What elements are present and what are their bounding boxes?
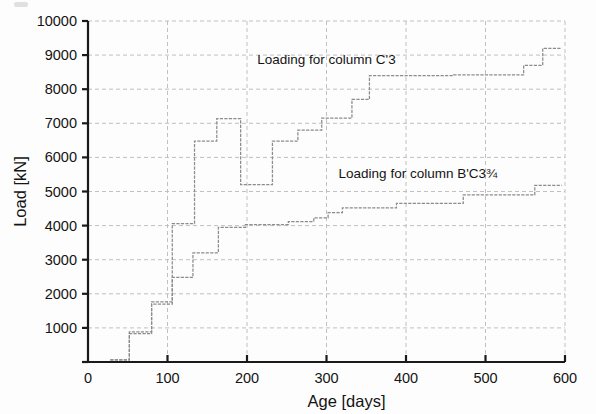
chart-figure: 1000200030004000500060007000800090001000… [0,0,596,414]
y-tick-label-4000: 4000 [45,218,77,234]
x-tick-label-400: 400 [394,370,418,386]
y-tick-label-7000: 7000 [45,115,77,131]
y-tick-label-3000: 3000 [45,252,77,268]
y-tick-label-5000: 5000 [45,184,77,200]
x-tick-label-0: 0 [84,370,92,386]
upper-curve-label: Loading for column C'3 [257,52,395,67]
x-tick-label-500: 500 [473,370,497,386]
y-tick-label-9000: 9000 [45,47,77,63]
x-tick-label-200: 200 [235,370,259,386]
series-line-column-bc3 [110,185,562,360]
x-tick-label-300: 300 [314,370,338,386]
y-tick-label-1000: 1000 [45,320,77,336]
lower-curve-label: Loading for column B'C3¾ [339,166,498,181]
x-axis-title: Age [days] [308,392,386,410]
x-tick-label-100: 100 [155,370,179,386]
x-tick-label-600: 600 [553,370,577,386]
y-tick-label-10000: 10000 [37,13,77,29]
y-tick-label-8000: 8000 [45,81,77,97]
series-line-column-c3 [110,48,562,360]
y-tick-label-6000: 6000 [45,149,77,165]
y-axis-title: Load [kN] [11,156,29,227]
load-vs-age-step-chart: 1000200030004000500060007000800090001000… [0,0,596,414]
y-tick-label-2000: 2000 [45,286,77,302]
